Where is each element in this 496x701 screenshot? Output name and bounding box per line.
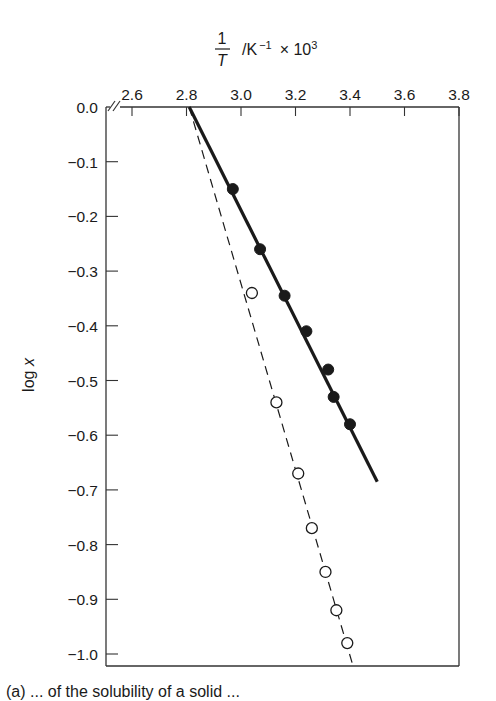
open-circle-marker [271,397,282,408]
x-tick-label: 3.8 [448,86,470,103]
y-tick-label: −0.8 [67,537,98,554]
x-axis-title-unit: /K [242,41,257,58]
y-tick-label: −0.1 [67,154,98,171]
open-circle-marker [306,523,317,534]
filled-circle-marker [279,290,290,301]
x-axis-title-denominator: T [217,52,228,69]
filled-circle-marker [345,419,356,430]
figure-caption-clipped: (a) ... of the solubility of a solid ... [6,683,240,701]
x-ticks: 2.62.83.03.23.43.63.8 [121,86,470,116]
x-tick-label: 2.6 [121,86,143,103]
x-axis-title: 1 T /K−1× 103 [215,30,317,69]
filled-circle-marker [301,326,312,337]
filled-circle-marker [255,244,266,255]
x-tick-label: 3.6 [394,86,416,103]
y-axis-title: log x [20,357,37,392]
axis-break-mark [108,101,120,111]
y-tick-label: −0.3 [67,263,98,280]
open-circle-marker [331,605,342,616]
y-tick-label: −1.0 [67,646,98,663]
open-circle-marker [293,468,304,479]
x-tick-label: 3.2 [285,86,307,103]
plot-frame [106,107,459,666]
y-tick-label: −0.7 [67,482,98,499]
x-tick-label: 2.8 [176,86,198,103]
filled-circle-marker [323,364,334,375]
open-circle-marker [320,566,331,577]
y-tick-label: −0.6 [67,427,98,444]
series-layer [189,107,377,665]
x-axis-title-units: /K−1× 103 [242,39,317,58]
x-axis-title-exp1: −1 [259,39,272,51]
series-filled [189,107,377,482]
x-tick-label: 3.0 [230,86,252,103]
y-tick-label: −0.4 [67,318,98,335]
x-axis-title-exp2: 3 [311,39,317,51]
y-tick-label: 0.0 [76,99,98,116]
y-ticks: 0.0−0.1−0.2−0.3−0.4−0.5−0.6−0.7−0.8−0.9−… [67,99,118,663]
open-circle-marker [246,287,257,298]
open-circle-marker [342,638,353,649]
filled-circle-marker [227,184,238,195]
y-tick-label: −0.9 [67,591,98,608]
x-axis-title-numerator: 1 [218,30,227,47]
y-tick-label: −0.2 [67,208,98,225]
filled-circle-marker [328,391,339,402]
x-axis-title-times: × 10 [280,41,312,58]
y-tick-label: −0.5 [67,373,98,390]
x-tick-label: 3.4 [339,86,361,103]
